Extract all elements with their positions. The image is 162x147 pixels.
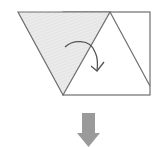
origami-diagram [0,0,162,147]
down-arrow-icon [77,113,100,147]
